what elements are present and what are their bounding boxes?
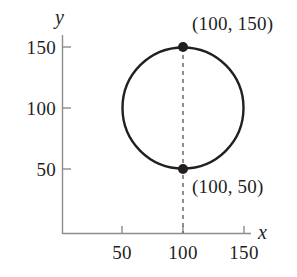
x-tick-label-50: 50 xyxy=(112,243,132,262)
point-annotation-bottom: (100, 50) xyxy=(192,177,263,196)
x-tick-label-100: 100 xyxy=(168,243,197,262)
y-axis-label: y xyxy=(55,7,64,27)
y-tick-label-50: 50 xyxy=(36,160,56,179)
point-annotation-top: (100, 150) xyxy=(192,14,273,33)
y-tick-label-150: 150 xyxy=(27,38,56,57)
point-marker-top xyxy=(178,42,188,52)
x-tick-label-150: 150 xyxy=(229,243,258,262)
x-axis-label: x xyxy=(258,222,267,242)
y-tick-label-100: 100 xyxy=(27,99,56,118)
point-marker-bottom xyxy=(178,164,188,174)
circle-plot-figure: 150 100 50 50 100 150 y x (100, 150) (10… xyxy=(0,0,297,277)
